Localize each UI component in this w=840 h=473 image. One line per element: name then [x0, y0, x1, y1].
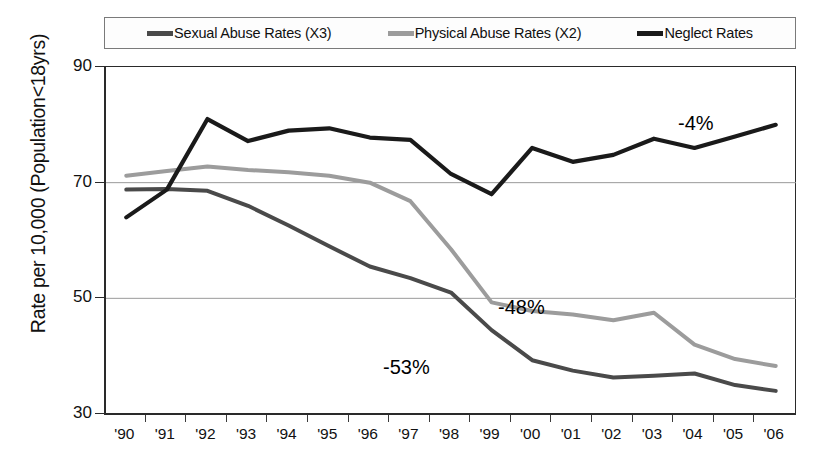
y-tick-mark — [95, 66, 104, 67]
x-tick-mark — [591, 415, 592, 422]
x-tick-mark — [266, 415, 267, 422]
legend-swatch-physical-abuse — [388, 31, 414, 36]
x-tick-mark — [713, 415, 714, 422]
x-tick-label: '90 — [104, 426, 144, 442]
x-tick-label: '91 — [145, 426, 185, 442]
y-tick-label: 30 — [52, 404, 92, 421]
x-tick-label: '04 — [673, 426, 713, 442]
legend-swatch-neglect — [637, 31, 663, 36]
y-tick-label: 50 — [52, 288, 92, 305]
chart-container: Sexual Abuse Rates (X3) Physical Abuse R… — [0, 0, 840, 473]
legend-swatch-sexual-abuse — [147, 31, 173, 36]
x-tick-label: '99 — [470, 426, 510, 442]
legend-item-physical-abuse: Physical Abuse Rates (X2) — [388, 26, 582, 41]
y-axis-title: Rate per 10,000 (Population<18yrs) — [27, 4, 50, 364]
y-tick-label: 70 — [52, 173, 92, 190]
x-tick-label: '06 — [754, 426, 794, 442]
x-tick-label: '01 — [551, 426, 591, 442]
x-tick-mark — [550, 415, 551, 422]
x-tick-mark — [510, 415, 511, 422]
x-tick-label: '92 — [185, 426, 225, 442]
x-tick-label: '03 — [632, 426, 672, 442]
x-tick-label: '02 — [591, 426, 631, 442]
legend-label-neglect: Neglect Rates — [664, 26, 752, 41]
x-tick-label: '98 — [429, 426, 469, 442]
annotation-neglect: -4% — [678, 113, 714, 133]
legend-label-physical-abuse: Physical Abuse Rates (X2) — [415, 26, 582, 41]
x-tick-label: '05 — [713, 426, 753, 442]
x-tick-label: '94 — [267, 426, 307, 442]
x-tick-mark — [185, 415, 186, 422]
x-tick-mark — [469, 415, 470, 422]
y-tick-mark — [95, 297, 104, 298]
annotation-physical: -48% — [498, 297, 545, 317]
x-tick-mark — [429, 415, 430, 422]
y-tick-mark — [95, 182, 104, 183]
chart-legend: Sexual Abuse Rates (X3) Physical Abuse R… — [104, 17, 796, 49]
legend-item-sexual-abuse: Sexual Abuse Rates (X3) — [147, 26, 331, 41]
x-tick-label: '93 — [226, 426, 266, 442]
x-tick-mark — [672, 415, 673, 422]
annotation-sexual: -53% — [383, 357, 430, 377]
x-tick-mark — [307, 415, 308, 422]
x-tick-label: '96 — [348, 426, 388, 442]
series-line-sexual-abuse-rates-x3 — [126, 189, 775, 391]
x-tick-mark — [145, 415, 146, 422]
y-tick-label: 90 — [52, 57, 92, 74]
x-tick-mark — [226, 415, 227, 422]
x-tick-label: '95 — [307, 426, 347, 442]
x-tick-mark — [632, 415, 633, 422]
y-tick-mark — [95, 413, 104, 414]
x-tick-mark — [348, 415, 349, 422]
x-tick-label: '00 — [510, 426, 550, 442]
x-tick-label: '97 — [388, 426, 428, 442]
x-tick-mark — [388, 415, 389, 422]
legend-label-sexual-abuse: Sexual Abuse Rates (X3) — [174, 26, 331, 41]
legend-item-neglect: Neglect Rates — [637, 26, 752, 41]
x-tick-mark — [753, 415, 754, 422]
